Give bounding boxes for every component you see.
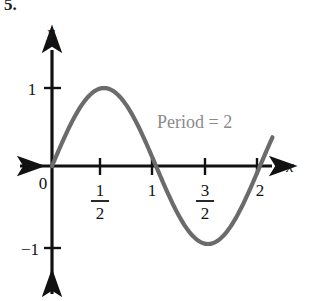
period-annotation: Period = 2 [157, 112, 232, 132]
y-axis-label: y [45, 23, 55, 42]
x-tick-label-two: 2 [256, 181, 265, 200]
origin-label: 0 [39, 174, 48, 193]
y-tick-label-negative-one: −1 [21, 240, 39, 259]
x-axis-label: x [285, 157, 294, 176]
y-tick-label-one: 1 [28, 80, 37, 99]
fraction-denominator: 2 [96, 204, 105, 223]
x-tick-label-three-halves: 3 2 [196, 181, 214, 223]
fraction-denominator: 2 [201, 204, 210, 223]
fraction-numerator: 3 [201, 181, 210, 200]
sine-graph-figure: x y 0 1 −1 1 2 1 [0, 0, 317, 301]
figure-page: 5. x y [0, 0, 317, 301]
x-tick-label-one: 1 [148, 181, 157, 200]
x-tick-label-one-half: 1 2 [91, 181, 109, 223]
fraction-numerator: 1 [96, 181, 105, 200]
